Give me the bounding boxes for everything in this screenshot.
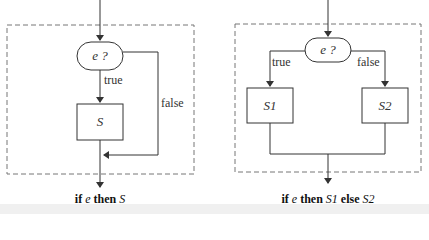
right-condition-text: e ?	[305, 38, 351, 62]
bottom-strip	[0, 204, 429, 214]
left-statement-text: S	[77, 104, 123, 140]
left-false-label: false	[161, 96, 184, 111]
right-statement1-text: S1	[247, 88, 293, 123]
left-condition-text: e ?	[77, 42, 123, 70]
left-true-label: true	[104, 73, 123, 88]
right-false-label: false	[357, 55, 380, 70]
right-true-label: true	[272, 55, 291, 70]
right-statement2-text: S2	[362, 88, 408, 123]
